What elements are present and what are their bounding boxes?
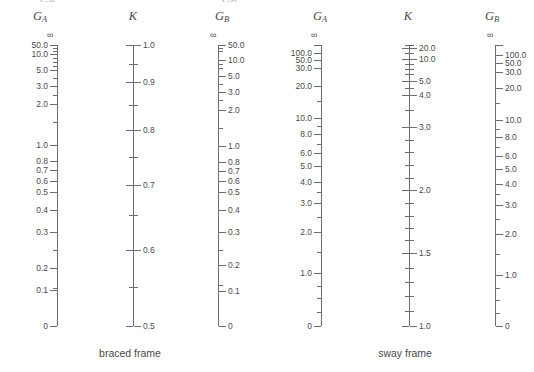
tick-sway-k-20 bbox=[405, 240, 409, 241]
tick-sway-gb-8-r bbox=[496, 137, 503, 138]
tick-sway-ga-5 bbox=[317, 101, 321, 102]
tick-braced-k-5-r bbox=[134, 157, 138, 158]
tick-sway-k-15-r bbox=[410, 178, 414, 179]
tick-sway-k-21 bbox=[402, 253, 409, 254]
tick-sway-gb-13-r bbox=[496, 194, 500, 195]
tick-braced-ga-16 bbox=[50, 181, 57, 182]
tick-braced-gb-16-r bbox=[219, 192, 226, 193]
tick-braced-ga-12 bbox=[53, 122, 57, 123]
tick-braced-gb-4-r bbox=[219, 64, 223, 65]
tick-braced-k-6-r bbox=[134, 185, 141, 186]
tick-sway-ga-11 bbox=[314, 166, 321, 167]
tick-label-sway-gb-18: 1.0 bbox=[505, 271, 517, 280]
tick-braced-k-3-r bbox=[134, 105, 138, 106]
scale-title-letter: K bbox=[129, 9, 137, 23]
tick-sway-gb-3-r bbox=[496, 72, 503, 73]
tick-sway-k-8 bbox=[405, 88, 409, 89]
infinity-label-sway-gb: ∞ bbox=[487, 30, 493, 40]
tick-sway-gb-10-r bbox=[496, 156, 503, 157]
scale-title-braced-ga: GA bbox=[20, 9, 60, 24]
tick-label-braced-gb-12: 1.0 bbox=[228, 142, 240, 151]
tick-sway-k-10 bbox=[405, 110, 409, 111]
tick-sway-ga-2 bbox=[314, 60, 321, 61]
tick-braced-gb-17-r bbox=[219, 210, 226, 211]
scale-title-subscript: A bbox=[322, 14, 327, 24]
tick-braced-gb-13-r bbox=[219, 162, 226, 163]
tick-sway-k-17 bbox=[405, 203, 409, 204]
tick-braced-k-4-r bbox=[134, 130, 141, 131]
tick-label-sway-ga-18: 1.0 bbox=[272, 269, 312, 278]
scale-title-letter: G bbox=[485, 9, 494, 23]
tick-sway-gb-6-r bbox=[496, 120, 503, 121]
tick-sway-k-9 bbox=[402, 95, 409, 96]
clipped-top-row: GAGB bbox=[0, 0, 534, 2]
axis-line-sway-ga bbox=[321, 45, 322, 326]
tick-sway-ga-21 bbox=[317, 312, 321, 313]
tick-braced-ga-5 bbox=[53, 62, 57, 63]
tick-braced-k-4 bbox=[126, 130, 133, 131]
scale-title-braced-k: K bbox=[113, 9, 153, 24]
tick-braced-ga-25 bbox=[50, 326, 57, 327]
tick-braced-ga-20 bbox=[53, 250, 57, 251]
tick-sway-k-23 bbox=[405, 282, 409, 283]
tick-label-sway-ga-11: 5.0 bbox=[272, 162, 312, 171]
tick-sway-gb-19-r bbox=[496, 288, 500, 289]
tick-braced-gb-6-r bbox=[219, 76, 226, 77]
tick-braced-k-3 bbox=[129, 105, 133, 106]
tick-braced-k-7-r bbox=[134, 215, 138, 216]
tick-braced-ga-14 bbox=[50, 161, 57, 162]
tick-sway-ga-0 bbox=[314, 45, 321, 46]
tick-braced-ga-1 bbox=[53, 48, 57, 49]
scale-title-subscript: A bbox=[42, 14, 47, 24]
caption-braced-frame: braced frame bbox=[70, 347, 190, 359]
scale-title-braced-gb: GB bbox=[202, 9, 242, 24]
tick-sway-k-9-r bbox=[410, 95, 417, 96]
tick-label-braced-ga-7: 5.0 bbox=[8, 66, 48, 75]
tick-braced-k-1-r bbox=[134, 64, 138, 65]
tick-sway-k-11 bbox=[402, 127, 409, 128]
tick-label-sway-gb-14: 3.0 bbox=[505, 201, 517, 210]
tick-label-braced-k-10: 0.5 bbox=[143, 322, 155, 331]
tick-braced-ga-9 bbox=[50, 86, 57, 87]
tick-label-sway-gb-16: 2.0 bbox=[505, 230, 517, 239]
tick-label-sway-k-11: 3.0 bbox=[419, 123, 431, 132]
tick-sway-k-15 bbox=[405, 178, 409, 179]
tick-label-sway-gb-8: 8.0 bbox=[505, 133, 517, 142]
tick-sway-gb-0-r bbox=[496, 45, 503, 46]
tick-sway-k-19 bbox=[405, 228, 409, 229]
tick-braced-gb-1-r bbox=[219, 48, 223, 49]
scale-title-subscript: B bbox=[224, 14, 229, 24]
tick-sway-k-6-r bbox=[410, 74, 414, 75]
tick-braced-gb-7-r bbox=[219, 84, 223, 85]
tick-sway-gb-17-r bbox=[496, 254, 500, 255]
tick-braced-gb-2-r bbox=[219, 51, 223, 52]
tick-braced-gb-10-r bbox=[219, 110, 226, 111]
tick-sway-ga-7 bbox=[317, 126, 321, 127]
tick-label-sway-gb-10: 6.0 bbox=[505, 152, 517, 161]
infinity-label-sway-ga: ∞ bbox=[311, 30, 317, 40]
tick-sway-k-26-r bbox=[410, 326, 417, 327]
tick-sway-ga-20 bbox=[317, 298, 321, 299]
tick-label-braced-gb-6: 5.0 bbox=[228, 72, 240, 81]
alignment-chart-figure: GAGB GA∞50.010.05.03.02.01.00.80.70.60.5… bbox=[0, 0, 534, 372]
tick-label-braced-ga-18: 0.4 bbox=[8, 206, 48, 215]
scale-title-letter: G bbox=[33, 9, 42, 23]
tick-sway-ga-22 bbox=[314, 326, 321, 327]
tick-braced-ga-3 bbox=[50, 54, 57, 55]
tick-sway-gb-2-r bbox=[496, 63, 503, 64]
infinity-label-braced-gb: ∞ bbox=[210, 30, 216, 40]
tick-label-braced-ga-13: 1.0 bbox=[8, 141, 48, 150]
tick-label-sway-k-26: 1.0 bbox=[419, 322, 431, 331]
tick-braced-k-0-r bbox=[134, 45, 141, 46]
tick-sway-gb-4-r bbox=[496, 88, 503, 89]
tick-sway-k-13-r bbox=[410, 152, 414, 153]
tick-label-braced-ga-11: 2.0 bbox=[8, 100, 48, 109]
tick-label-braced-k-2: 0.9 bbox=[143, 78, 155, 87]
tick-sway-gb-11-r bbox=[496, 169, 503, 170]
tick-sway-k-17-r bbox=[410, 203, 414, 204]
tick-sway-k-21-r bbox=[410, 253, 417, 254]
tick-braced-gb-14-r bbox=[219, 171, 226, 172]
tick-sway-k-1-r bbox=[410, 48, 417, 49]
infinity-label-braced-ga: ∞ bbox=[47, 30, 53, 40]
tick-braced-k-10 bbox=[126, 326, 133, 327]
